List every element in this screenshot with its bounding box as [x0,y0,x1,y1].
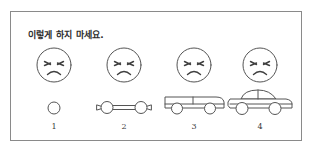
angry-face-2 [89,45,159,85]
vehicle-stage-3 [159,90,229,118]
angry-face-3 [159,45,229,85]
step-number-2: 2 [89,122,159,131]
angry-face-1 [19,45,89,85]
illustration-frame: 이렇게 하지 마세요. 1 [10,11,302,141]
step-column-2: 2 [89,12,159,142]
illustration-canvas: 이렇게 하지 마세요. 1 [0,0,313,153]
vehicle-stage-4 [225,90,295,118]
step-column-4: 4 [225,12,295,142]
step-number-4: 4 [225,122,295,131]
step-column-1: 1 [19,12,89,142]
step-number-1: 1 [19,122,89,131]
vehicle-stage-2 [89,90,159,118]
step-column-3: 3 [159,12,229,142]
vehicle-stage-1 [19,90,89,118]
step-number-3: 3 [159,122,229,131]
angry-face-4 [225,45,295,85]
